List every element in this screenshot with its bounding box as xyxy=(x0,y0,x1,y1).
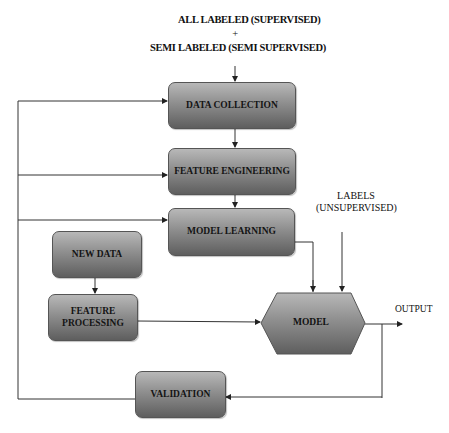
node-new-data: NEW DATA xyxy=(52,231,142,278)
node-validation: VALIDATION xyxy=(135,371,226,418)
node-feature-engineering-label: FEATURE ENGINEERING xyxy=(174,166,290,178)
node-model-label: MODEL xyxy=(293,317,329,327)
node-feature-engineering: FEATURE ENGINEERING xyxy=(168,148,296,195)
labels-unsupervised-line1: LABELS xyxy=(316,190,396,202)
node-feature-processing-label-2: PROCESSING xyxy=(62,318,124,330)
labels-unsupervised: LABELS (UNSUPERVISED) xyxy=(316,190,396,214)
node-data-collection-label: DATA COLLECTION xyxy=(186,100,278,112)
node-model-learning: MODEL LEARNING xyxy=(168,208,295,256)
node-validation-label: VALIDATION xyxy=(151,389,211,401)
output-label: OUTPUT xyxy=(395,304,432,315)
flowchart-canvas: ALL LABELED (SUPERVISED) + SEMI LABELED … xyxy=(0,0,449,433)
node-model-learning-label: MODEL LEARNING xyxy=(187,226,276,238)
node-feature-processing-label-1: FEATURE xyxy=(71,306,116,318)
node-new-data-label: NEW DATA xyxy=(72,249,122,261)
labels-unsupervised-line2: (UNSUPERVISED) xyxy=(316,202,396,214)
node-data-collection: DATA COLLECTION xyxy=(168,82,296,129)
node-feature-processing: FEATURE PROCESSING xyxy=(48,294,138,341)
input-semi-supervised-label: SEMI LABELED (SEMI SUPERVISED) xyxy=(150,42,320,53)
input-plus-sign: + xyxy=(225,28,245,39)
input-supervised-label: ALL LABELED (SUPERVISED) xyxy=(178,14,298,25)
